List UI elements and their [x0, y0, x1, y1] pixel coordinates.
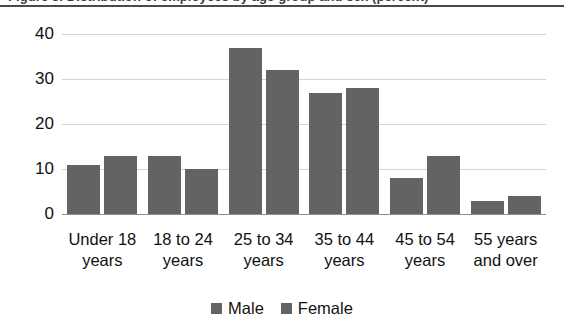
y-axis-tick-label: 40: [4, 25, 54, 42]
x-axis-category-label-line: 55 years: [465, 229, 546, 250]
y-axis-tick-label: 10: [4, 160, 54, 177]
x-axis-category-label-line: 35 to 44: [304, 229, 385, 250]
x-axis-category-label-line: years: [385, 250, 466, 271]
legend-label: Male: [228, 300, 264, 317]
bar: [309, 93, 342, 215]
x-axis-line: [62, 214, 546, 215]
legend-entry[interactable]: Female: [281, 300, 353, 317]
legend-entry[interactable]: Male: [211, 300, 264, 317]
x-axis-category-label: 35 to 44years: [304, 220, 385, 272]
bar: [471, 201, 504, 215]
x-axis-category-label: 45 to 54years: [385, 220, 466, 272]
square-swatch-icon: [211, 303, 222, 314]
x-axis-category-labels: Under 18years18 to 24years25 to 34years3…: [62, 220, 546, 272]
chart-title-clipped: Figure 3. Distribution of employees by a…: [8, 0, 429, 4]
x-axis-category-label: Under 18years: [62, 220, 143, 272]
title-divider-rule: [0, 5, 564, 7]
bar: [148, 156, 181, 215]
gridline: [62, 34, 546, 35]
square-swatch-icon: [281, 303, 292, 314]
y-axis-tick-label: 30: [4, 70, 54, 87]
x-axis-category-label-line: 45 to 54: [385, 229, 466, 250]
x-axis-category-label-line: years: [143, 250, 224, 271]
bar: [390, 178, 423, 214]
bar: [427, 156, 460, 215]
bar: [346, 88, 379, 214]
gridline: [62, 124, 546, 125]
bar: [229, 48, 262, 215]
legend-label: Female: [298, 300, 353, 317]
chart-legend: MaleFemale: [0, 300, 564, 317]
x-axis-category-label-line: years: [62, 250, 143, 271]
bar-chart: 010203040 Under 18years18 to 24years25 t…: [0, 8, 564, 332]
gridline: [62, 79, 546, 80]
x-axis-category-label: 25 to 34years: [223, 220, 304, 272]
bar: [266, 70, 299, 214]
x-axis-category-label-line: years: [304, 250, 385, 271]
bar: [508, 196, 541, 214]
bar: [104, 156, 137, 215]
bar: [185, 169, 218, 214]
y-axis-tick-label: 0: [4, 205, 54, 222]
x-axis-category-label-line: and over: [465, 250, 546, 271]
x-axis-category-label-line: Under 18: [62, 229, 143, 250]
x-axis-category-label-line: 18 to 24: [143, 229, 224, 250]
y-axis-tick-label: 20: [4, 115, 54, 132]
x-axis-category-label: 55 yearsand over: [465, 220, 546, 272]
plot-area: [62, 34, 546, 214]
x-axis-category-label: 18 to 24years: [143, 220, 224, 272]
x-axis-category-label-line: 25 to 34: [223, 229, 304, 250]
x-axis-category-label-line: years: [223, 250, 304, 271]
bar: [67, 165, 100, 215]
